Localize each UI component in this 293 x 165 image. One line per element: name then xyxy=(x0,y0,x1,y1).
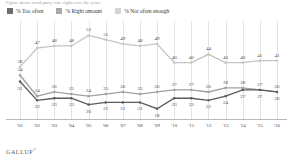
data-label: 27 xyxy=(257,81,262,86)
data-point[interactable] xyxy=(224,87,226,89)
data-point[interactable] xyxy=(104,93,106,95)
data-point[interactable] xyxy=(104,101,106,103)
data-point[interactable] xyxy=(207,53,209,55)
data-point[interactable] xyxy=(259,89,261,91)
legend-item-right-amount[interactable]: % Right amount xyxy=(56,8,102,14)
data-label: 40 xyxy=(172,54,177,59)
data-point[interactable] xyxy=(122,43,124,45)
data-label: 23 xyxy=(189,102,194,107)
data-label: 26 xyxy=(120,83,125,88)
series-line xyxy=(20,75,277,96)
data-label: 28 xyxy=(240,79,245,84)
data-label: 26 xyxy=(275,95,280,100)
data-label: 48 xyxy=(69,37,74,42)
legend-item-too-often[interactable]: % Too often xyxy=(7,8,43,14)
data-point[interactable] xyxy=(242,89,244,91)
data-point[interactable] xyxy=(190,89,192,91)
data-label: 22 xyxy=(35,104,40,109)
data-point[interactable] xyxy=(173,61,175,63)
data-point[interactable] xyxy=(224,95,226,97)
legend-item-not-often-enough[interactable]: % Not often enough xyxy=(115,8,169,14)
x-tick-label: '12 xyxy=(206,123,212,128)
data-point[interactable] xyxy=(70,97,72,99)
data-label: 18 xyxy=(155,112,160,117)
data-label: 25 xyxy=(69,86,74,91)
legend-swatch-not-often-enough xyxy=(115,8,121,14)
data-point[interactable] xyxy=(156,43,158,45)
data-point[interactable] xyxy=(139,45,141,47)
data-point[interactable] xyxy=(156,91,158,93)
data-point[interactable] xyxy=(207,99,209,101)
x-axis-line xyxy=(6,119,287,120)
data-label: 22 xyxy=(206,104,211,109)
data-point[interactable] xyxy=(104,38,106,40)
data-point[interactable] xyxy=(19,74,21,76)
x-tick-label: '15 xyxy=(257,123,263,128)
data-point[interactable] xyxy=(139,101,141,103)
data-point[interactable] xyxy=(122,91,124,93)
x-tick-label: '07 xyxy=(120,123,126,128)
data-point[interactable] xyxy=(190,61,192,63)
data-label: 48 xyxy=(52,37,57,42)
data-point[interactable] xyxy=(53,45,55,47)
x-tick-label: '05 xyxy=(86,123,92,128)
data-point[interactable] xyxy=(242,61,244,63)
data-label: 20 xyxy=(86,108,91,113)
x-tick-label: '09 xyxy=(154,123,160,128)
data-point[interactable] xyxy=(207,91,209,93)
data-label: 26 xyxy=(206,83,211,88)
data-label: 26 xyxy=(52,83,57,88)
data-label: 25 xyxy=(103,86,108,91)
data-point[interactable] xyxy=(173,97,175,99)
data-point[interactable] xyxy=(173,89,175,91)
x-axis-ticks: '01'02'03'04'05'06'07'08'09'10'11'12'13'… xyxy=(6,121,287,133)
data-label: 25 xyxy=(137,86,142,91)
data-point[interactable] xyxy=(276,91,278,93)
series-line xyxy=(20,35,277,66)
data-label: 24 xyxy=(35,88,40,93)
gallup-wordmark: GALLUP xyxy=(6,149,33,155)
data-label: 38 xyxy=(18,58,23,63)
data-label: 23 xyxy=(172,102,177,107)
data-point[interactable] xyxy=(122,101,124,103)
data-point[interactable] xyxy=(259,59,261,61)
data-label: 34 xyxy=(18,67,23,72)
data-label: 27 xyxy=(172,81,177,86)
data-label: 26 xyxy=(275,83,280,88)
data-point[interactable] xyxy=(19,80,21,82)
data-point[interactable] xyxy=(276,59,278,61)
data-point[interactable] xyxy=(156,108,158,110)
figure-subtitle: Figure shows trend party vote rights ove… xyxy=(6,0,100,5)
data-point[interactable] xyxy=(224,61,226,63)
data-point[interactable] xyxy=(139,93,141,95)
data-point[interactable] xyxy=(242,87,244,89)
data-label: 23 xyxy=(52,102,57,107)
data-point[interactable] xyxy=(87,103,89,105)
data-label: 31 xyxy=(18,85,23,90)
gallup-chart-figure: Figure shows trend party vote rights ove… xyxy=(0,0,293,165)
x-tick-label: '04 xyxy=(68,123,74,128)
data-label: 41 xyxy=(275,52,280,57)
data-point[interactable] xyxy=(53,97,55,99)
data-label: 28 xyxy=(223,79,228,84)
data-point[interactable] xyxy=(70,45,72,47)
data-point[interactable] xyxy=(70,93,72,95)
data-label: 21 xyxy=(137,106,142,111)
series-lines xyxy=(6,21,287,119)
series-line xyxy=(20,82,277,109)
legend-label-not-often-enough: % Not often enough xyxy=(124,8,169,14)
data-point[interactable] xyxy=(190,97,192,99)
data-label: 48 xyxy=(137,37,142,42)
data-label: 47 xyxy=(35,40,40,45)
data-point[interactable] xyxy=(36,95,38,97)
data-label: 21 xyxy=(103,106,108,111)
data-point[interactable] xyxy=(36,47,38,49)
data-label: 21 xyxy=(120,106,125,111)
data-label: 23 xyxy=(69,102,74,107)
data-point[interactable] xyxy=(87,34,89,36)
data-point[interactable] xyxy=(36,99,38,101)
data-point[interactable] xyxy=(53,91,55,93)
gallup-logo: GALLUP® xyxy=(6,148,37,155)
data-point[interactable] xyxy=(87,95,89,97)
data-label: 49 xyxy=(120,35,125,40)
